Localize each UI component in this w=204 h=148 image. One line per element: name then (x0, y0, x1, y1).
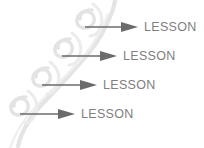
lesson-step-row: LESSON (20, 103, 134, 125)
right-arrow-icon (20, 108, 75, 120)
lesson-step-label: LESSON (103, 79, 156, 92)
lesson-step-row: LESSON (42, 74, 156, 96)
lesson-step-label: LESSON (144, 21, 197, 34)
lesson-steps-diagram: LESSON LESSON LESSON LESSON (0, 0, 204, 148)
lesson-step-row: LESSON (85, 16, 197, 38)
right-arrow-icon (42, 79, 97, 91)
right-arrow-icon (62, 50, 117, 62)
lesson-step-label: LESSON (81, 108, 134, 121)
lesson-step-row: LESSON (62, 45, 176, 67)
lesson-step-label: LESSON (123, 50, 176, 63)
right-arrow-icon (85, 21, 138, 33)
